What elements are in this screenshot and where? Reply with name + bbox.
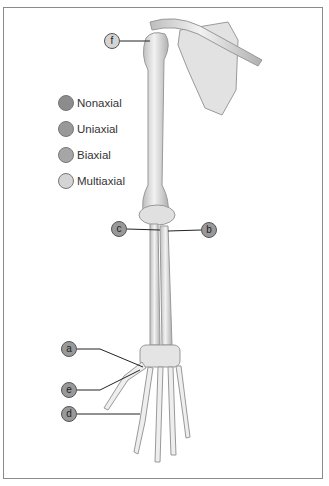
legend-label: Multiaxial [77,175,125,187]
legend-item-multiaxial: Multiaxial [58,168,125,194]
finger-middle [155,367,163,462]
upper-limb-skeleton-illustration [0,0,329,486]
legend-label: Uniaxial [77,123,118,135]
finger-index [134,367,153,454]
finger-little [176,366,190,438]
humerus [143,33,169,215]
biaxial-swatch-icon [58,147,74,163]
elbow-joint [139,205,175,225]
legend-item-nonaxial: Nonaxial [58,90,125,116]
marker-c: c [111,221,127,237]
marker-f: f [104,33,120,49]
carpals [140,345,180,367]
legend-label: Biaxial [77,149,111,161]
legend-item-uniaxial: Uniaxial [58,116,125,142]
leader-line-a [77,349,143,367]
finger-ring [168,367,176,455]
legend-item-biaxial: Biaxial [58,142,125,168]
joint-type-legend: Nonaxial Uniaxial Biaxial Multiaxial [58,90,125,194]
marker-b: b [201,222,217,238]
legend-label: Nonaxial [77,97,122,109]
marker-d: d [61,406,77,422]
radius [160,226,172,345]
marker-a: a [61,341,77,357]
nonaxial-swatch-icon [58,95,74,111]
thumb [104,362,146,410]
leader-line-b [168,230,201,231]
uniaxial-swatch-icon [58,121,74,137]
marker-e: e [61,382,77,398]
multiaxial-swatch-icon [58,173,74,189]
ulna [150,224,160,345]
